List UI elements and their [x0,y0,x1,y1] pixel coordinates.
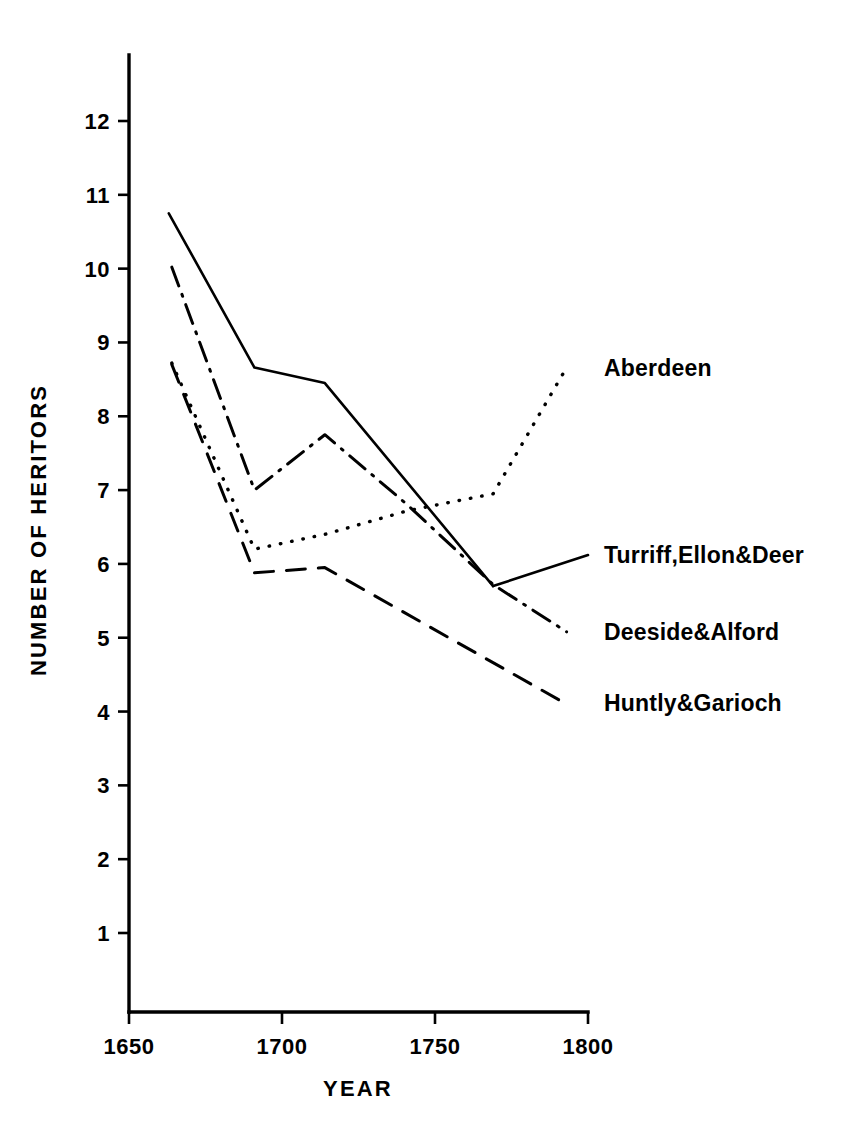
y-axis-tick-label: 8 [97,404,110,429]
y-axis-tick-label: 3 [97,773,110,798]
series-line-2 [172,363,567,549]
y-axis-title: NUMBER OF HERITORS [26,384,51,676]
axis-titles: YEAR NUMBER OF HERITORS [26,384,393,1101]
x-axis-tick-label: 1700 [257,1034,308,1059]
y-axis-tick-label: 1 [97,921,110,946]
y-axis-tick-label: 9 [97,330,110,355]
series-label-3: Huntly&Garioch [604,690,782,716]
x-axis-tick-label: 1800 [563,1034,614,1059]
x-axis-tick-label: 1650 [104,1034,155,1059]
line-chart: 1234567891011121650170017501800 Turriff,… [0,0,864,1130]
y-axis-tick-label: 11 [86,183,110,208]
data-series-layer [169,213,567,704]
chart-figure: 1234567891011121650170017501800 Turriff,… [0,0,864,1130]
x-axis-tick-label: 1750 [410,1034,461,1059]
series-line-1 [172,267,567,632]
y-axis-tick-label: 10 [85,257,110,282]
series-label-0: Turriff,Ellon&Deer [604,542,804,568]
series-label-1: Deeside&Alford [604,619,779,645]
series-labels-layer: Turriff,Ellon&DeerDeeside&AlfordAberdeen… [493,355,804,716]
y-axis-tick-label: 12 [85,109,110,134]
series-label-2: Aberdeen [604,355,712,381]
series-leader-line-0 [493,555,588,586]
axes: 1234567891011121650170017501800 [85,55,614,1059]
series-line-3 [172,365,567,705]
y-axis-tick-label: 4 [97,700,110,725]
y-axis-tick-label: 2 [97,847,110,872]
y-axis-tick-label: 5 [97,626,110,651]
y-axis-tick-label: 7 [97,478,110,503]
x-axis-title: YEAR [323,1076,393,1101]
y-axis-tick-label: 6 [97,552,110,577]
series-line-0 [169,213,493,586]
